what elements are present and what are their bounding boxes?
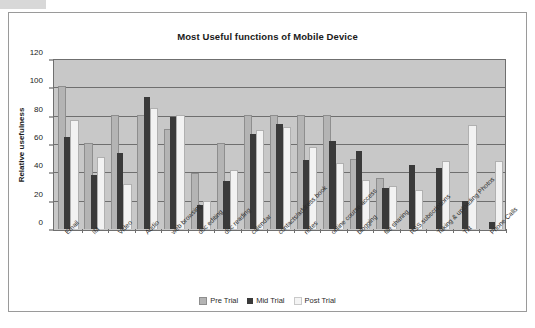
y-tick-mark-80: [49, 116, 53, 117]
legend-label: Mid Trial: [256, 296, 284, 305]
bar-group: [214, 61, 241, 229]
bar-group: [108, 61, 135, 229]
bar-group: [55, 61, 82, 229]
legend-label: Post Trial: [305, 296, 336, 305]
y-tick-label-60: 60: [19, 133, 43, 142]
gridline-120: [54, 59, 505, 60]
y-tick-label-80: 80: [19, 104, 43, 113]
bar-group: [267, 61, 294, 229]
bar-group: [479, 61, 506, 229]
bar-group: [135, 61, 162, 229]
y-tick-mark-20: [49, 201, 53, 202]
bar-post: [256, 130, 264, 229]
legend-swatch-pre: [199, 297, 207, 305]
legend-item[interactable]: Post Trial: [294, 296, 336, 305]
bar-post: [468, 125, 476, 229]
y-tick-mark-120: [49, 60, 53, 61]
bar-post: [70, 120, 78, 229]
bar-group: [320, 61, 347, 229]
y-tick-label-120: 120: [19, 48, 43, 57]
legend-label: Pre Trial: [210, 296, 238, 305]
y-tick-label-100: 100: [19, 76, 43, 85]
bar-post: [97, 157, 105, 229]
y-tick-mark-0: [49, 230, 53, 231]
bar-group: [188, 61, 215, 229]
y-tick-label-20: 20: [19, 189, 43, 198]
chart-page: Most Useful functions of Mobile Device R…: [0, 0, 535, 328]
chart-legend: Pre TrialMid TrialPost Trial: [9, 296, 526, 305]
bar-group: [373, 61, 400, 229]
chart-title: Most Useful functions of Mobile Device: [9, 31, 526, 42]
bar-post: [176, 115, 184, 229]
bar-post: [150, 108, 158, 229]
y-tick-mark-100: [49, 88, 53, 89]
bar-group: [400, 61, 427, 229]
y-tick-label-0: 0: [19, 218, 43, 227]
x-tick-mark: [506, 229, 507, 233]
bar-group: [241, 61, 268, 229]
bar-post: [309, 147, 317, 229]
bar-group: [82, 61, 109, 229]
document-scrap: [0, 0, 46, 9]
legend-swatch-mid: [247, 298, 253, 304]
y-tick-mark-40: [49, 173, 53, 174]
legend-item[interactable]: Mid Trial: [247, 296, 284, 305]
chart-frame: Most Useful functions of Mobile Device R…: [8, 12, 527, 312]
legend-item[interactable]: Pre Trial: [199, 296, 238, 305]
bar-group: [161, 61, 188, 229]
bar-post: [283, 127, 291, 229]
y-tick-mark-60: [49, 145, 53, 146]
y-tick-label-40: 40: [19, 161, 43, 170]
legend-swatch-post: [294, 297, 302, 305]
